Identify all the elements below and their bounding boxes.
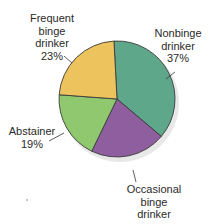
label-abstainer: Abstainer 19% [0,125,66,150]
label-line: Frequent [18,12,86,25]
label-value: 23% [18,50,86,63]
label-line: Occasional [112,183,196,196]
label-line: binge [18,25,86,38]
leader-line [133,170,136,182]
stray-mark [26,199,28,201]
label-value: 37% [136,52,219,65]
label-line: Abstainer [0,125,66,138]
label-value: 19% [0,138,66,151]
label-occasional-binge-drinker: Occasional binge drinker 21% [112,183,196,223]
label-nonbinge-drinker: Nonbinge drinker 37% [136,27,219,65]
label-line: Nonbinge [136,27,219,40]
label-line: drinker [18,37,86,50]
label-line: drinker [112,208,196,221]
label-line: drinker [136,40,219,53]
label-value: 21% [112,221,196,224]
label-line: binge [112,196,196,209]
label-frequent-binge-drinker: Frequent binge drinker 23% [18,12,86,62]
